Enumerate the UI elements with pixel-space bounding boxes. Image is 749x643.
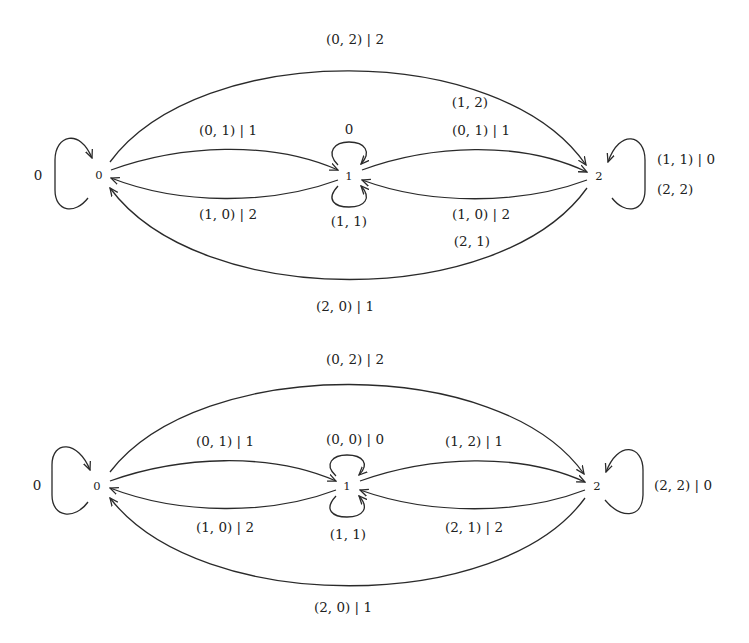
edge-label-0-1: (0, 1) | 1 (196, 433, 254, 449)
loop-edge-0 (55, 138, 92, 209)
node-1: 1 (345, 169, 352, 183)
edge-label-2-1-b: (2, 1) (454, 233, 490, 249)
edge-label-2-1: (2, 1) | 2 (445, 519, 503, 535)
edge-0-to-1 (110, 461, 336, 481)
node-2: 2 (593, 479, 600, 493)
edge-2-to-1 (360, 490, 585, 509)
edge-2-to-1 (362, 180, 587, 199)
loop-label-1-top: 0 (345, 121, 354, 137)
edge-label-2-0: (2, 0) | 1 (314, 599, 372, 615)
loop-edge-1-bottom (332, 186, 366, 207)
edge-label-1-2: (1, 2) | 1 (445, 433, 503, 449)
edge-label-1-2-b: (0, 1) | 1 (452, 122, 510, 138)
edge-1-to-0 (111, 178, 338, 199)
edge-1-to-2 (360, 461, 585, 482)
edge-1-to-0 (110, 488, 336, 509)
edge-label-1-2-a: (1, 2) (452, 94, 488, 110)
edge-label-2-0: (2, 0) | 1 (316, 298, 374, 314)
loop-label-0: 0 (34, 167, 43, 183)
loop-edge-0 (52, 447, 90, 514)
edge-0-to-2 (110, 384, 584, 474)
loop-label-2-b: (2, 2) (657, 181, 693, 197)
edge-1-to-2 (362, 150, 587, 172)
loop-label-1-bottom: (1, 1) (331, 213, 367, 229)
loop-edge-2 (605, 450, 643, 514)
node-0: 0 (93, 479, 100, 493)
edge-label-0-2: (0, 2) | 2 (326, 351, 384, 367)
edge-0-to-2 (110, 71, 586, 165)
loop-edge-1-top (332, 142, 366, 165)
edge-label-2-1-a: (1, 0) | 2 (452, 206, 510, 222)
node-0: 0 (95, 168, 102, 182)
loop-label-1-bottom: (1, 1) (330, 526, 366, 542)
loop-label-2: (2, 2) | 0 (654, 477, 712, 493)
edge-label-1-0: (1, 0) | 2 (196, 519, 254, 535)
loop-edge-2 (608, 139, 645, 209)
edge-label-1-0: (1, 0) | 2 (199, 206, 257, 222)
node-2: 2 (595, 169, 602, 183)
diagram-bottom: 0 1 2 0 (0, 2) | 2 (0, 1) | 1 (1, 0) | 2… (33, 351, 712, 615)
state-diagrams: 0 1 2 0 (0, 2) | 2 (0, 1) | 1 (1, 0) | 2… (0, 0, 749, 643)
loop-label-2-a: (1, 1) | 0 (657, 151, 715, 167)
node-1: 1 (343, 479, 350, 493)
edge-label-0-2: (0, 2) | 2 (326, 31, 384, 47)
loop-edge-1-bottom (330, 496, 364, 517)
loop-label-1-top: (0, 0) | 0 (326, 431, 384, 447)
loop-edge-1-top (330, 455, 364, 476)
diagram-top: 0 1 2 0 (0, 2) | 2 (0, 1) | 1 (1, 0) | 2… (34, 31, 715, 314)
edge-2-to-0 (110, 188, 587, 280)
edge-label-0-1: (0, 1) | 1 (199, 122, 257, 138)
loop-label-0: 0 (33, 477, 42, 493)
edge-0-to-1 (111, 149, 338, 170)
